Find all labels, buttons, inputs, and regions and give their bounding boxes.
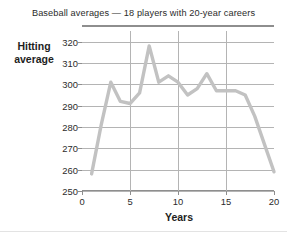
y-tick-label: 280 — [62, 122, 78, 133]
y-tick-label: 320 — [62, 36, 78, 47]
x-tick-label: 0 — [79, 196, 84, 207]
y-tick-label: 260 — [62, 164, 78, 175]
y-tick-label: 310 — [62, 58, 78, 69]
chart-card: Baseball averages — 18 players with 20-y… — [0, 0, 287, 232]
y-tick-label: 250 — [62, 186, 78, 197]
data-series-line — [82, 31, 274, 191]
x-tick-label: 10 — [173, 196, 183, 207]
x-tick-mark — [226, 191, 227, 195]
x-tick-label: 5 — [127, 196, 132, 207]
x-tick-label: 15 — [221, 196, 231, 207]
x-tick-mark — [82, 191, 83, 195]
x-tick-mark — [274, 191, 275, 195]
chart-title: Baseball averages — 18 players with 20-y… — [0, 8, 287, 18]
x-tick-mark — [178, 191, 179, 195]
x-axis-label: Years — [78, 211, 280, 223]
y-tick-label: 290 — [62, 100, 78, 111]
y-axis-label: Hitting average — [6, 40, 62, 65]
y-tick-label: 270 — [62, 143, 78, 154]
series-polyline — [92, 46, 274, 174]
x-tick-label: 20 — [269, 196, 279, 207]
x-tick-mark — [130, 191, 131, 195]
plot-area: 25026027028029030031032005101520 — [82, 31, 274, 191]
chart-screenshot: Baseball averages — 18 players with 20-y… — [0, 0, 287, 238]
y-tick-label: 300 — [62, 79, 78, 90]
plot-top-rule — [82, 25, 274, 27]
y-axis-label-line-2: average — [6, 53, 62, 66]
y-axis-label-line-1: Hitting — [6, 40, 62, 53]
